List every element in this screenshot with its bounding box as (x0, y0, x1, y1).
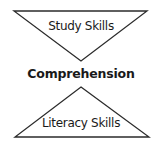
study-skills-label: Study Skills (1, 19, 160, 33)
literacy-skills-label: Literacy Skills (1, 116, 160, 130)
comprehension-label: Comprehension (1, 66, 160, 81)
